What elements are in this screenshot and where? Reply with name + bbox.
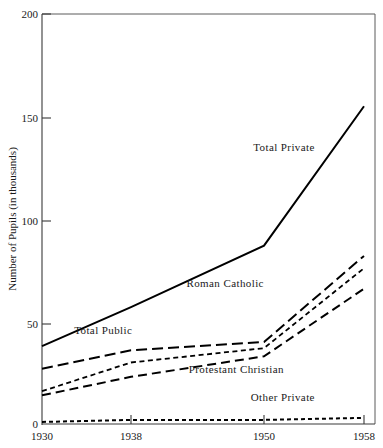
series-label-roman-catholic: Roman Catholic [186,277,263,289]
series-annotation-layer: Total PrivateRoman CatholicTotal PublicP… [74,141,315,403]
series-label-total-public: Total Public [74,324,132,336]
series-line-other-private [42,418,364,422]
y-axis-tick-labels: 200 150 100 50 0 [22,8,39,430]
y-tick-label-0: 0 [33,418,39,430]
y-tick-label-200: 200 [22,8,39,20]
y-tick-label-100: 100 [22,215,39,227]
y-axis-title: Number of Pupils (in thousands) [6,147,19,291]
y-tick-label-50: 50 [27,318,39,330]
line-chart-figure: 200 150 100 50 0 Number of Pupils (in th… [0,0,383,448]
y-axis-ticks [42,14,51,324]
series-line-protestant-christian [42,289,364,396]
series-label-other-private: Other Private [251,391,315,403]
x-tick-label-1930: 1930 [31,430,54,442]
series-label-protestant-christian: Protestant Christian [189,363,284,375]
x-tick-label-1958: 1958 [353,430,376,442]
chart-canvas: 200 150 100 50 0 Number of Pupils (in th… [0,0,383,448]
series-line-total-private [42,106,364,346]
x-axis-tick-labels: 1930 1938 1950 1958 [31,430,376,442]
y-tick-label-150: 150 [22,112,39,124]
series-label-total-private: Total Private [253,141,315,153]
x-tick-label-1950: 1950 [253,430,276,442]
x-tick-label-1938: 1938 [120,430,143,442]
